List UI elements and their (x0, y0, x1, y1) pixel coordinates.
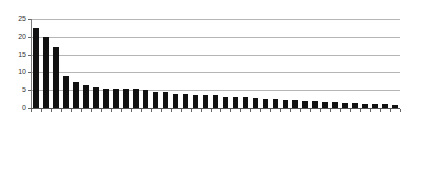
bar-chart: 0510152025 Hong KongUnited StatesIsraelS… (0, 0, 422, 193)
bar (93, 87, 99, 108)
bar (33, 28, 39, 108)
x-tick-mark (151, 109, 152, 112)
x-tick-mark (300, 109, 301, 112)
x-tick-mark (61, 109, 62, 112)
x-tick-label-wrap: Canada (73, 112, 81, 192)
x-tick-label-wrap: Germany (203, 112, 211, 192)
x-tick-mark (171, 109, 172, 112)
x-tick-mark (250, 109, 251, 112)
x-tick-label-wrap: Bulgaria (322, 112, 330, 192)
bar (203, 95, 209, 108)
bar (362, 104, 368, 108)
x-tick-label-wrap: Hong Kong (33, 112, 41, 192)
x-tick-label-wrap: Spain (312, 112, 320, 192)
x-tick-mark (111, 109, 112, 112)
x-tick-label-wrap: United States (43, 112, 51, 192)
x-tick-label-wrap: Ireland (262, 112, 270, 192)
x-tick-mark (240, 109, 241, 112)
bar (173, 94, 179, 108)
y-tick-label: 15 (0, 51, 26, 58)
x-tick-label-wrap: Russian Federation (332, 112, 340, 192)
x-tick-mark (280, 109, 281, 112)
x-tick-label-wrap: Hungary (252, 112, 260, 192)
y-tick-label: 5 (0, 86, 26, 93)
x-tick-mark (81, 109, 82, 112)
x-tick-mark (260, 109, 261, 112)
x-tick-label-wrap: Brazil (232, 112, 240, 192)
x-tick-mark (91, 109, 92, 112)
y-tick-label: 20 (0, 33, 26, 40)
x-tick-label-wrap: Norway (113, 112, 121, 192)
x-tick-label-wrap: South Korea (163, 112, 171, 192)
bar (73, 82, 79, 108)
x-tick-label-wrap: Sweden (83, 112, 91, 192)
x-tick-mark (320, 109, 321, 112)
x-tick-mark (211, 109, 212, 112)
x-tick-mark (380, 109, 381, 112)
bar (63, 76, 69, 108)
bar (83, 85, 89, 108)
x-tick-mark (230, 109, 231, 112)
bar (233, 97, 239, 108)
x-tick-label-wrap: Poland (352, 112, 360, 192)
x-tick-label-wrap: China (133, 112, 141, 192)
x-tick-label-wrap: Vietnam (272, 112, 280, 192)
x-tick-mark (400, 109, 401, 112)
x-tick-mark (390, 109, 391, 112)
bar (183, 94, 189, 108)
x-tick-mark (181, 109, 182, 112)
x-tick-label-wrap: Singapore (63, 112, 71, 192)
bar (273, 99, 279, 108)
x-tick-label-wrap: India (183, 112, 191, 192)
x-tick-mark (290, 109, 291, 112)
y-tick-label: 25 (0, 15, 26, 22)
x-tick-label-wrap: Austria (302, 112, 310, 192)
bar (133, 89, 139, 108)
x-tick-label-wrap: Australia (292, 112, 300, 192)
x-tick-label-wrap: Czech Republic (342, 112, 350, 192)
bar (263, 99, 269, 108)
bar (53, 47, 59, 108)
bar (193, 95, 199, 108)
x-tick-label-wrap: United Kingdom (143, 112, 151, 192)
x-tick-label-wrap: Denmark (93, 112, 101, 192)
x-tick-mark (330, 109, 331, 112)
bar (302, 101, 308, 108)
x-axis-line (31, 108, 400, 109)
x-tick-label-wrap: Netherlands (222, 112, 230, 192)
bar (153, 92, 159, 108)
x-tick-mark (71, 109, 72, 112)
bar (352, 103, 358, 108)
y-tick-label: 10 (0, 68, 26, 75)
bar (113, 89, 119, 108)
x-tick-label-wrap: Turkey (382, 112, 390, 192)
x-tick-mark (340, 109, 341, 112)
x-tick-label-wrap: South Africa (282, 112, 290, 192)
bar (312, 101, 318, 108)
x-tick-mark (31, 109, 32, 112)
x-tick-mark (310, 109, 311, 112)
x-tick-mark (141, 109, 142, 112)
bar (332, 102, 338, 108)
bar (223, 97, 229, 108)
x-tick-label-wrap: Japan (372, 112, 380, 192)
bar (283, 100, 289, 108)
x-tick-label-wrap: Italy (362, 112, 370, 192)
x-tick-mark (370, 109, 371, 112)
x-tick-mark (121, 109, 122, 112)
x-tick-label-wrap: Israel (53, 112, 61, 192)
x-tick-mark (360, 109, 361, 112)
x-tick-mark (101, 109, 102, 112)
bar (43, 37, 49, 108)
x-tick-label-wrap: France (153, 112, 161, 192)
bar (322, 102, 328, 108)
x-tick-label-wrap: Switzerland (123, 112, 131, 192)
x-tick-label-wrap: Belgium (213, 112, 221, 192)
bar (243, 97, 249, 108)
bar (342, 103, 348, 108)
x-tick-mark (350, 109, 351, 112)
bar (163, 92, 169, 108)
bar (392, 105, 398, 108)
x-tick-label-wrap: Ukraine (193, 112, 201, 192)
bar (123, 89, 129, 108)
